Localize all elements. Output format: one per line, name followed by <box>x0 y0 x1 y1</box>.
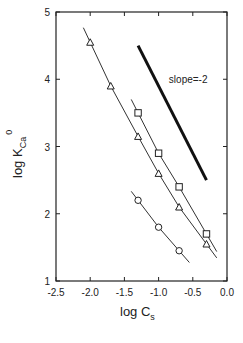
svg-text:-1.0: -1.0 <box>150 287 168 298</box>
svg-text:-1.5: -1.5 <box>116 287 134 298</box>
svg-text:0.0: 0.0 <box>220 287 234 298</box>
svg-text:log KCa0: log KCa0 <box>4 130 28 178</box>
svg-text:4: 4 <box>44 74 50 85</box>
y-axis-label: log KCa0 <box>4 130 28 178</box>
svg-text:1: 1 <box>44 276 50 287</box>
svg-text:-0.5: -0.5 <box>184 287 202 298</box>
svg-text:-2.0: -2.0 <box>82 287 100 298</box>
svg-text:2: 2 <box>44 209 50 220</box>
fit-curves <box>83 28 216 263</box>
data-markers <box>87 39 210 254</box>
chart: -2.5-2.0-1.5-1.0-0.50.012345 slope=-2 lo… <box>0 0 243 343</box>
slope-annotation: slope=-2 <box>169 74 208 85</box>
svg-text:-2.5: -2.5 <box>47 287 65 298</box>
x-axis-label: log Cs <box>120 304 155 322</box>
svg-text:3: 3 <box>44 142 50 153</box>
svg-text:5: 5 <box>44 7 50 18</box>
slope-reference-line <box>138 46 206 181</box>
